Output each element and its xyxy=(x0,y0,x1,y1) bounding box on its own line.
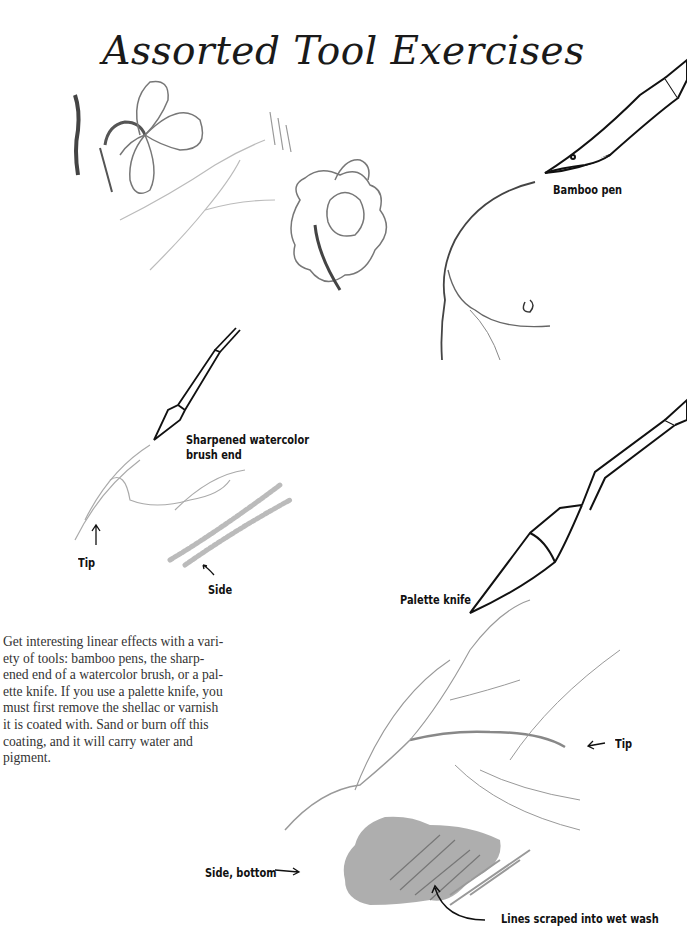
label-lines-scraped: Lines scraped into wet wash xyxy=(501,912,659,927)
side-bottom-arrow xyxy=(275,868,299,875)
body-line: ety of tools: bamboo pens, the sharp- xyxy=(3,651,243,668)
body-line: Get interesting linear effects with a va… xyxy=(3,634,243,651)
label-brush-end-line1: Sharpened watercolor xyxy=(186,433,309,448)
label-side-bottom: Side, bottom xyxy=(205,866,277,881)
body-line: coating, and it will carry water and xyxy=(3,734,243,751)
body-line: ened end of a watercolor brush, or a pal… xyxy=(3,667,243,684)
body-line: must first remove the shellac or varnish xyxy=(3,700,243,717)
bamboo-pen-icon xyxy=(545,60,687,173)
illustrations xyxy=(0,0,687,943)
label-side: Side xyxy=(208,583,232,598)
label-palette-knife: Palette knife xyxy=(400,593,471,608)
side-arrow xyxy=(203,565,214,575)
body-line: it is coated with. Sand or burn off this xyxy=(3,717,243,734)
tip-right-arrow xyxy=(588,741,605,749)
label-tip-left: Tip xyxy=(78,556,95,571)
palette-knife-icon xyxy=(470,400,687,613)
rose-sketch xyxy=(291,160,386,290)
body-paragraph: Get interesting linear effects with a va… xyxy=(3,634,243,767)
label-tip-right: Tip xyxy=(615,737,632,752)
body-line: ette knife. If you use a palette knife, … xyxy=(3,684,243,701)
tip-left-arrow xyxy=(92,525,100,545)
brush-side-strokes xyxy=(170,485,290,565)
body-line: pigment. xyxy=(3,750,243,767)
bamboo-pen-strokes xyxy=(441,182,550,360)
palette-knife-strokes xyxy=(285,600,620,830)
label-brush-end-line2: brush end xyxy=(186,448,242,463)
label-bamboo-pen: Bamboo pen xyxy=(553,183,622,198)
violet-sketch xyxy=(75,81,203,193)
sharpened-brush-icon xyxy=(154,328,240,440)
